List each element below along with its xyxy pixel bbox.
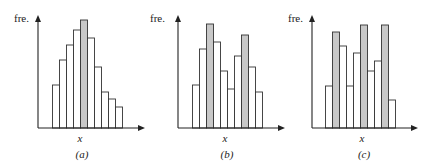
histogram-bar-highlighted	[361, 25, 368, 128]
panel-caption: (b)	[221, 148, 234, 161]
panel-caption: (a)	[76, 148, 89, 161]
histogram-bar	[200, 49, 207, 128]
histogram-bar	[354, 53, 361, 128]
histogram-bar	[249, 67, 256, 128]
histogram-bar	[235, 56, 242, 128]
histogram-bar	[389, 100, 396, 128]
histogram-bar	[102, 92, 109, 128]
histogram-figure: fre.x(a)fre.x(b)fre.x(c)	[0, 0, 432, 167]
y-axis-label: fre.	[14, 12, 29, 24]
histogram-bar	[116, 107, 123, 128]
histogram-bar	[347, 86, 354, 128]
x-axis-arrow-icon	[411, 125, 418, 131]
histogram-bar	[375, 61, 382, 128]
histogram-bar	[228, 89, 235, 128]
histogram-bar	[193, 85, 200, 128]
histogram-bar	[340, 46, 347, 128]
y-axis-label: fre.	[288, 12, 303, 24]
histogram-bar	[256, 92, 263, 128]
histogram-bar	[214, 42, 221, 128]
histogram-bar-highlighted	[242, 35, 249, 128]
histogram-panel-a: fre.x(a)	[14, 12, 145, 161]
histogram-bar	[95, 67, 102, 128]
x-axis-label: x	[77, 132, 83, 144]
histogram-bar	[109, 99, 116, 128]
y-axis-arrow-icon	[309, 15, 315, 22]
histogram-bar-highlighted	[207, 24, 214, 128]
x-axis-arrow-icon	[138, 125, 145, 131]
histogram-panel-b: fre.x(b)	[150, 12, 285, 161]
y-axis-label: fre.	[150, 12, 165, 24]
histogram-bar	[74, 30, 81, 128]
histogram-bar	[60, 60, 67, 128]
histogram-bar	[67, 45, 74, 128]
panel-caption: (c)	[358, 148, 371, 161]
y-axis-arrow-icon	[175, 15, 181, 22]
x-axis-label: x	[222, 132, 228, 144]
y-axis-arrow-icon	[35, 15, 41, 22]
x-axis-label: x	[359, 132, 365, 144]
histogram-bar	[368, 71, 375, 128]
histogram-bar-highlighted	[333, 32, 340, 128]
histogram-bar	[88, 38, 95, 128]
x-axis-arrow-icon	[278, 125, 285, 131]
histogram-bar-highlighted	[382, 25, 389, 128]
histogram-panel-c: fre.x(c)	[288, 12, 418, 161]
histogram-bar	[221, 71, 228, 128]
histogram-bar	[326, 86, 333, 128]
histogram-bar-highlighted	[81, 20, 88, 128]
histogram-bar	[53, 85, 60, 128]
